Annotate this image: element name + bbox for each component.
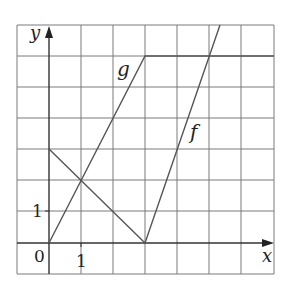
y-axis-label: y — [29, 22, 41, 43]
y-axis-arrow-icon — [45, 26, 53, 38]
g-label: g — [117, 57, 130, 81]
y-tick-label: 1 — [32, 201, 43, 221]
f-label: f — [188, 120, 201, 144]
grid — [17, 25, 274, 274]
x-tick-label: 1 — [76, 251, 87, 271]
origin-label: 0 — [34, 246, 45, 266]
x-axis-label: x — [262, 245, 272, 266]
graph-canvas: y x 0 1 1 g f — [0, 0, 285, 286]
